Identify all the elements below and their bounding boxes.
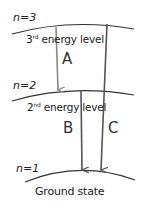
level-2-n-label: n=2 — [13, 80, 36, 91]
level-2-name: 2nd energy level — [27, 102, 106, 113]
level-2-rest: energy level — [41, 101, 107, 113]
level-3-n-label: n=3 — [13, 12, 36, 23]
transition-c-label: C — [108, 121, 118, 136]
level-3-rest: energy level — [38, 33, 104, 45]
transition-a-label: A — [62, 52, 72, 67]
level-1-line — [25, 170, 135, 182]
transition-b-label: B — [63, 121, 73, 136]
ground-state-label: Ground state — [35, 186, 104, 197]
level-2-line — [12, 91, 134, 101]
arrow-c — [101, 24, 107, 170]
level-3-name: 3rd energy level — [26, 34, 104, 45]
level-1-n-label: n=1 — [16, 163, 39, 174]
level-2-sup: nd — [33, 101, 40, 108]
